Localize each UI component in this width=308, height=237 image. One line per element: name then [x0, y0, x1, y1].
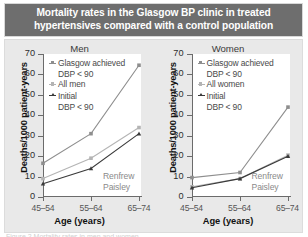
x-axis-label-men: Age (years) — [5, 216, 154, 226]
legend-sublabel-glasgow: DBP < 90 — [198, 69, 274, 79]
chart-panel-men: Men Deaths/1000 patient-years 0102030405… — [5, 40, 154, 232]
figure-container: Mortality rates in the Glasgow BP clinic… — [0, 0, 307, 237]
y-tick-label: 10 — [5, 171, 35, 181]
legend-sublabel-initial: DBP < 90 — [49, 102, 125, 112]
y-tick-label: 60 — [154, 68, 184, 78]
y-tick-label: 30 — [154, 130, 184, 140]
figure-title: Mortality rates in the Glasgow BP clinic… — [5, 7, 302, 32]
series-line — [192, 107, 288, 177]
annotation-renfrew-men: Renfrew Paisley — [103, 171, 134, 192]
legend-item-glasgow: Glasgow achieved — [198, 58, 274, 68]
annotation-line2: Paisley — [252, 182, 283, 193]
y-tick-label: 40 — [5, 109, 35, 119]
data-point-marker — [286, 105, 290, 109]
y-tick-label: 60 — [5, 68, 35, 78]
legend-sublabel-glasgow: DBP < 90 — [49, 69, 125, 79]
data-point-marker — [137, 63, 141, 67]
legend-label-initial: Initial — [207, 91, 226, 101]
legend-label-glasgow: Glasgow achieved — [58, 58, 125, 68]
square-marker-icon — [49, 83, 56, 86]
y-tick-label: 0 — [5, 191, 35, 201]
y-tick-label: 50 — [154, 89, 184, 99]
chart-panel-women: Women Deaths/1000 patient-years 01020304… — [154, 40, 303, 232]
legend-sublabel-initial: DBP < 90 — [198, 102, 274, 112]
data-point-marker — [41, 161, 45, 165]
legend-label-initial: Initial — [58, 91, 77, 101]
legend-item-all: All women — [198, 79, 274, 89]
legend-item-initial: Initial — [49, 91, 125, 101]
y-tick-label: 20 — [5, 150, 35, 160]
legend-label-all: All men — [58, 79, 85, 89]
legend-item-all: All men — [49, 79, 125, 89]
annotation-line2: Paisley — [103, 182, 134, 193]
y-tick-label: 0 — [154, 191, 184, 201]
square-marker-icon — [198, 62, 205, 65]
y-tick-label: 40 — [154, 109, 184, 119]
x-tick-label: 45–54 — [172, 203, 212, 213]
x-axis-label-women: Age (years) — [154, 216, 303, 226]
y-tick-label: 70 — [5, 48, 35, 58]
triangle-marker-icon — [49, 94, 56, 97]
x-tick-label: 65–74 — [268, 203, 308, 213]
annotation-line1: Renfrew — [252, 171, 283, 182]
annotation-renfrew-women: Renfrew Paisley — [252, 171, 283, 192]
x-tick-label: 55–64 — [220, 203, 260, 213]
legend-item-initial: Initial — [198, 91, 274, 101]
data-point-marker — [137, 131, 141, 135]
data-point-marker — [89, 156, 93, 160]
square-marker-icon — [49, 62, 56, 65]
legend-label-all: All women — [207, 79, 245, 89]
y-tick-label: 20 — [154, 150, 184, 160]
data-point-marker — [137, 126, 141, 130]
legend-men: Glasgow achieved DBP < 90 All men Initia… — [49, 58, 125, 112]
legend-label-glasgow: Glasgow achieved — [207, 58, 274, 68]
data-point-marker — [89, 132, 93, 136]
y-tick-label: 10 — [154, 171, 184, 181]
triangle-marker-icon — [198, 94, 205, 97]
x-tick-label: 45–54 — [23, 203, 63, 213]
figure-caption: Figure 2 Mortality rates in men and wome… — [6, 233, 301, 237]
square-marker-icon — [198, 83, 205, 86]
y-tick-label: 70 — [154, 48, 184, 58]
figure-header: Mortality rates in the Glasgow BP clinic… — [4, 3, 303, 37]
y-tick-label: 50 — [5, 89, 35, 99]
legend-women: Glasgow achieved DBP < 90 All women Init… — [198, 58, 274, 112]
charts-area: Men Deaths/1000 patient-years 0102030405… — [4, 39, 303, 233]
data-point-marker — [238, 171, 242, 175]
legend-item-glasgow: Glasgow achieved — [49, 58, 125, 68]
data-point-marker — [190, 176, 194, 180]
data-point-marker — [41, 177, 45, 181]
x-tick-label: 55–64 — [71, 203, 111, 213]
annotation-line1: Renfrew — [103, 171, 134, 182]
y-tick-label: 30 — [5, 130, 35, 140]
